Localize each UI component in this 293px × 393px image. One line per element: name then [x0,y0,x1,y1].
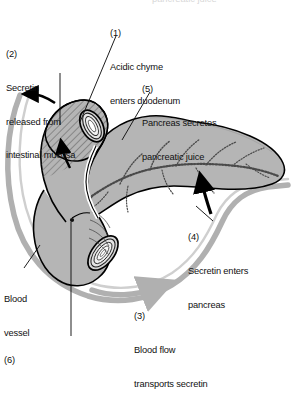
cut-off-top-text: pancreatic juice [152,0,217,4]
label-step-2-number: (2) [6,49,75,60]
label-blood-vessel-line1: Blood [4,294,29,305]
label-step-2: (2) Secretin released from intestinal mu… [6,27,75,184]
label-step-4-line1: Secretin enters [188,266,248,277]
label-step-2-line1: Secretin [6,83,75,94]
label-step-5-line2: pancreatic juice [142,152,216,163]
label-step-6-number: (6) [4,355,15,366]
label-step-2-line3: intestinal mucosa [6,150,75,161]
label-step-3-line2: transports secretin [134,379,208,390]
label-step-3: (3) Blood flow transports secretin [134,289,208,393]
label-step-4-number: (4) [188,232,248,243]
label-step-3-line1: Blood flow [134,345,208,356]
label-step-6: (6) [4,333,15,389]
label-step-5-number: (5) [142,84,216,95]
label-step-3-number: (3) [134,311,208,322]
label-step-2-line2: released from [6,117,75,128]
label-step-5-line1: Pancreas secretes [142,118,216,129]
label-step-1-number: (1) [110,28,180,39]
label-step-5: (5) Pancreas secretes pancreatic juice [142,62,216,185]
